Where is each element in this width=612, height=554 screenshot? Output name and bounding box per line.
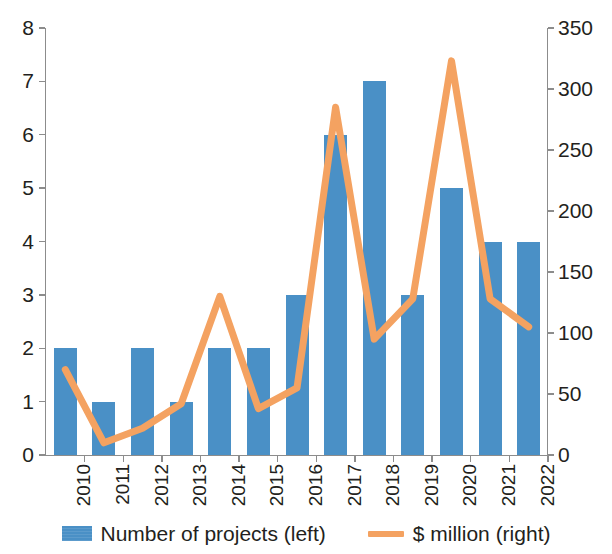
bar-2022 — [517, 242, 540, 456]
bar-2019 — [401, 295, 424, 455]
x-tick-label-2012: 2012 — [152, 464, 171, 506]
x-tick-mark — [431, 456, 432, 462]
x-tick-label-2016: 2016 — [306, 464, 325, 506]
left-tick-label: 3 — [22, 284, 34, 305]
right-tick-label: 300 — [558, 78, 593, 99]
x-tick-label-2011: 2011 — [113, 464, 132, 505]
x-tick-label-2017: 2017 — [345, 464, 364, 506]
right-tick-mark — [548, 27, 554, 28]
legend-label-number-of-projects: Number of projects (left) — [101, 523, 326, 544]
left-tick-mark — [39, 348, 45, 349]
bar-2012 — [131, 348, 154, 455]
x-tick-mark — [547, 456, 548, 462]
left-tick-label: 6 — [22, 124, 34, 145]
left-tick-label: 7 — [22, 70, 34, 91]
bar-2014 — [208, 348, 231, 455]
right-tick-mark — [548, 393, 554, 394]
right-tick-label: 0 — [558, 444, 570, 465]
plot-area — [46, 28, 548, 455]
right-tick-label: 350 — [558, 17, 593, 38]
left-tick-mark — [39, 134, 45, 135]
left-tick-label: 1 — [22, 391, 34, 412]
bar-2020 — [440, 188, 463, 455]
left-tick-mark — [39, 401, 45, 402]
legend-item-number-of-projects: Number of projects (left) — [62, 523, 326, 544]
right-tick-label: 50 — [558, 383, 581, 404]
right-tick-mark — [548, 88, 554, 89]
x-tick-mark — [123, 456, 124, 462]
left-tick-label: 2 — [22, 337, 34, 358]
left-tick-mark — [39, 27, 45, 28]
bar-2017 — [324, 135, 347, 455]
bar-2011 — [92, 402, 115, 455]
x-tick-mark — [84, 456, 85, 462]
right-tick-mark — [548, 332, 554, 333]
right-tick-label: 250 — [558, 139, 593, 160]
chart-container: 012345678 050100150200250300350 20102011… — [0, 0, 612, 554]
x-tick-label-2010: 2010 — [74, 464, 93, 506]
bar-2018 — [363, 81, 386, 455]
x-tick-mark — [200, 456, 201, 462]
right-tick-label: 150 — [558, 261, 593, 282]
left-tick-mark — [39, 241, 45, 242]
x-tick-mark — [393, 456, 394, 462]
x-tick-label-2022: 2022 — [538, 464, 557, 506]
left-tick-mark — [39, 294, 45, 295]
right-tick-mark — [548, 149, 554, 150]
bar-2010 — [54, 348, 77, 455]
x-tick-mark — [161, 456, 162, 462]
bottom-axis-line — [45, 455, 549, 456]
right-tick-label: 200 — [558, 200, 593, 221]
right-tick-mark — [548, 210, 554, 211]
x-tick-label-2020: 2020 — [460, 464, 479, 506]
left-tick-mark — [39, 81, 45, 82]
x-tick-label-2019: 2019 — [422, 464, 441, 506]
left-tick-label: 8 — [22, 17, 34, 38]
right-tick-label: 100 — [558, 322, 593, 343]
bar-2016 — [286, 295, 309, 455]
x-tick-mark — [509, 456, 510, 462]
left-tick-label: 0 — [22, 444, 34, 465]
x-tick-mark — [277, 456, 278, 462]
chart-legend: Number of projects (left) $ million (rig… — [0, 523, 612, 544]
left-tick-label: 4 — [22, 231, 34, 252]
right-tick-mark — [548, 271, 554, 272]
bar-swatch-icon — [62, 526, 92, 541]
x-tick-label-2018: 2018 — [383, 464, 402, 506]
x-tick-label-2015: 2015 — [267, 464, 286, 506]
x-tick-mark — [316, 456, 317, 462]
x-tick-label-2021: 2021 — [499, 464, 518, 506]
x-tick-mark — [470, 456, 471, 462]
x-tick-label-2014: 2014 — [229, 464, 248, 506]
legend-label-dollar-million: $ million (right) — [413, 523, 551, 544]
left-tick-label: 5 — [22, 177, 34, 198]
legend-item-dollar-million: $ million (right) — [368, 523, 551, 544]
bar-2013 — [170, 402, 193, 455]
right-tick-mark — [548, 454, 554, 455]
line-swatch-icon — [368, 531, 404, 537]
x-tick-mark — [238, 456, 239, 462]
x-tick-mark — [354, 456, 355, 462]
x-tick-label-2013: 2013 — [190, 464, 209, 506]
left-tick-mark — [39, 454, 45, 455]
left-tick-mark — [39, 187, 45, 188]
bar-2021 — [479, 242, 502, 456]
bar-2015 — [247, 348, 270, 455]
